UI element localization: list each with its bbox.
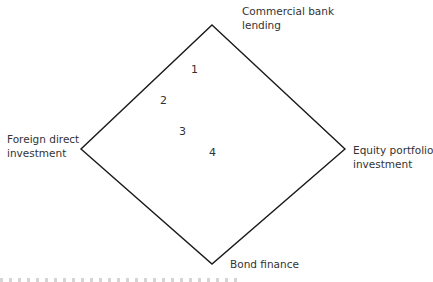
point-2: 2 xyxy=(160,95,167,107)
label-line: Foreign direct xyxy=(7,132,79,146)
point-3: 3 xyxy=(179,126,186,138)
point-1: 1 xyxy=(191,64,198,76)
label-line: lending xyxy=(242,18,334,32)
label-foreign-direct-investment: Foreign direct investment xyxy=(7,132,79,160)
label-line: investment xyxy=(353,157,433,171)
label-line: Bond finance xyxy=(230,257,299,271)
label-line: investment xyxy=(7,146,79,160)
point-4: 4 xyxy=(209,147,216,159)
diamond-outline xyxy=(81,25,345,264)
clipped-figure-caption xyxy=(0,278,240,282)
label-line: Commercial bank xyxy=(242,4,334,18)
label-commercial-bank-lending: Commercial bank lending xyxy=(242,4,334,32)
label-line: Equity portfolio xyxy=(353,143,433,157)
label-bond-finance: Bond finance xyxy=(230,257,299,271)
caption-fragment xyxy=(0,278,240,282)
label-equity-portfolio-investment: Equity portfolio investment xyxy=(353,143,433,171)
